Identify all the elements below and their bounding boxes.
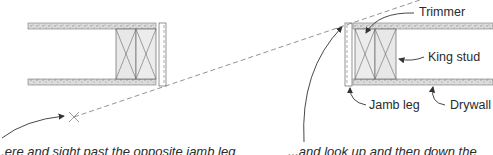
left-bottom-drywall bbox=[28, 79, 156, 85]
jamb-corner-arrow bbox=[304, 27, 342, 142]
label-trimmer: Trimmer bbox=[419, 6, 465, 19]
caption-left: ...ere and sight past the opposite jamb … bbox=[0, 145, 235, 155]
eye-point-x-mark bbox=[69, 112, 79, 122]
right-trimmer bbox=[355, 29, 375, 79]
right-jamb-leg bbox=[345, 23, 352, 86]
label-drywall: Drywall bbox=[450, 99, 491, 112]
right-king-stud bbox=[375, 29, 396, 79]
king-stud-leader-arrow bbox=[399, 57, 424, 60]
drywall-leader-arrow bbox=[433, 87, 446, 105]
right-bottom-drywall bbox=[353, 79, 493, 85]
label-king-stud: King stud bbox=[428, 51, 480, 64]
door-jamb-sighting-diagram bbox=[0, 0, 493, 155]
label-jamb-leg: Jamb leg bbox=[369, 99, 420, 112]
jamb-leg-leader-arrow bbox=[350, 88, 366, 105]
left-wall-section bbox=[28, 23, 166, 86]
caption-right: ...and look up and then down the bbox=[288, 145, 477, 155]
eye-point-arrow bbox=[2, 116, 64, 138]
left-jamb-leg bbox=[159, 23, 166, 86]
left-king-stud bbox=[116, 29, 136, 79]
left-trimmer bbox=[136, 29, 156, 79]
left-top-drywall bbox=[28, 23, 156, 29]
